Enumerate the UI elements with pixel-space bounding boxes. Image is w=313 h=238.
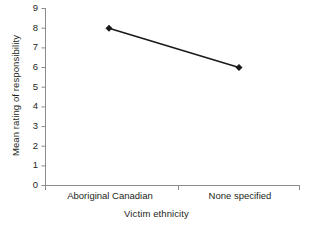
y-axis-line-group [42,8,46,186]
data-point-marker [105,25,112,32]
x-tick-label-none-specified: None specified [185,190,295,201]
chart-figure: Mean rating of responsibility 9 8 7 6 5 … [0,0,313,238]
x-tick-label-aboriginal-canadian: Aboriginal Canadian [45,190,175,201]
data-series-line-group [105,25,242,71]
x-axis-title: Victim ethnicity [0,208,313,219]
series-line [109,28,239,67]
plot-svg [0,0,313,238]
data-point-marker [235,64,242,71]
